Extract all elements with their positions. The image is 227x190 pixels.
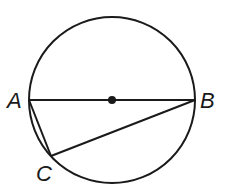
label-b: B (200, 88, 215, 113)
circle-diagram: A B C (0, 0, 227, 190)
chord-cb (51, 100, 195, 156)
label-c: C (36, 161, 52, 186)
chord-ac (29, 100, 51, 156)
label-a: A (5, 88, 22, 113)
center-point (108, 96, 116, 104)
